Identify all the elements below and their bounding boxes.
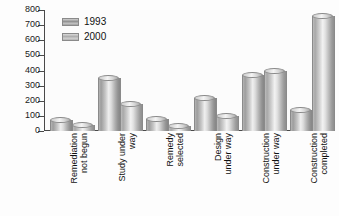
- x-axis-category-label: Construction under way: [261, 133, 281, 213]
- y-axis-tick-label: 100: [25, 111, 40, 120]
- bar-body: [194, 98, 217, 131]
- bar-group: [189, 10, 237, 131]
- bar-body: [290, 110, 313, 131]
- legend-item-1993: 1993: [62, 16, 106, 27]
- bar-2000: [264, 71, 285, 131]
- bar-1993: [194, 98, 215, 131]
- bar-2000: [72, 125, 93, 131]
- legend-swatch-1993-icon: [62, 18, 79, 26]
- bar-top-ellipse: [242, 72, 263, 78]
- legend-label-1993: 1993: [84, 17, 106, 27]
- y-axis-tick-label: 0: [35, 126, 40, 135]
- chart-legend: 1993 2000: [62, 16, 106, 42]
- bar-1993: [146, 119, 167, 131]
- legend-item-2000: 2000: [62, 31, 106, 42]
- bar-group: [141, 10, 189, 131]
- bar-top-ellipse: [146, 116, 167, 122]
- y-axis-tick-label: 800: [25, 5, 40, 14]
- bar-top-ellipse: [72, 122, 93, 128]
- x-axis-category-label: Construction completed: [309, 133, 329, 213]
- bar-1993: [50, 120, 71, 131]
- legend-label-2000: 2000: [84, 32, 106, 42]
- x-axis-category-label: Remediation not begun: [69, 133, 89, 213]
- bar-top-ellipse: [290, 107, 311, 113]
- y-axis-tick-label: 700: [25, 20, 40, 29]
- y-axis-tick-label: 600: [25, 35, 40, 44]
- x-axis-labels: Remediation not begunStudy under wayReme…: [45, 133, 333, 213]
- bar-body: [242, 75, 265, 131]
- bar-2000: [120, 104, 141, 131]
- y-axis-tick-label: 400: [25, 66, 40, 75]
- bar-body: [120, 104, 143, 131]
- bar-1993: [242, 75, 263, 131]
- bar-top-ellipse: [120, 101, 141, 107]
- bar-top-ellipse: [216, 113, 237, 119]
- bar-body: [98, 78, 121, 131]
- bar-2000: [312, 16, 333, 131]
- bar-1993: [290, 110, 311, 131]
- bar-1993: [98, 78, 119, 131]
- bar-group: [237, 10, 285, 131]
- bar-body: [264, 71, 287, 131]
- bar-2000: [168, 126, 189, 131]
- y-axis-tick-label: 300: [25, 81, 40, 90]
- y-axis-tick-label: 500: [25, 50, 40, 59]
- y-axis-tick-label: 200: [25, 96, 40, 105]
- x-axis-category-label: Remedy selected: [165, 133, 185, 213]
- bar-group: [285, 10, 333, 131]
- bar-body: [312, 16, 335, 131]
- bar-2000: [216, 116, 237, 131]
- bar-chart: 0100200300400500600700800 1993 2000 Reme…: [0, 0, 339, 216]
- x-axis-category-label: Design under way: [213, 133, 233, 213]
- x-axis-category-label: Study under way: [117, 133, 137, 213]
- legend-swatch-2000-icon: [62, 33, 79, 41]
